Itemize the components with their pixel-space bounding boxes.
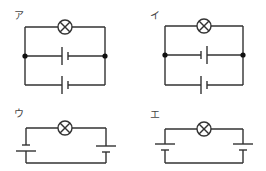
circuit-label-e: エ — [150, 109, 160, 120]
junction-dot — [102, 53, 107, 58]
circuit-label-i: イ — [150, 10, 160, 21]
battery-icon — [62, 76, 68, 94]
circuit-label-a: ア — [14, 10, 24, 21]
circuit-diagrams: ア イ — [0, 0, 266, 171]
junction-dot — [240, 52, 245, 57]
lamp-icon — [197, 19, 211, 33]
lamp-icon — [58, 20, 72, 34]
junction-dot — [22, 53, 27, 58]
circuit-i: イ — [150, 10, 246, 94]
junction-dot — [162, 52, 167, 57]
circuit-e: エ — [150, 109, 253, 163]
battery-icon — [201, 46, 207, 64]
circuit-label-u: ウ — [14, 108, 24, 119]
circuit-u: ウ — [14, 108, 116, 163]
battery-icon — [16, 145, 36, 151]
battery-icon — [155, 144, 175, 150]
battery-icon — [201, 76, 207, 94]
lamp-icon — [58, 121, 72, 135]
battery-icon — [62, 47, 68, 65]
lamp-icon — [197, 122, 211, 136]
circuit-a: ア — [14, 10, 108, 94]
battery-icon — [233, 144, 253, 150]
battery-icon — [96, 146, 116, 152]
